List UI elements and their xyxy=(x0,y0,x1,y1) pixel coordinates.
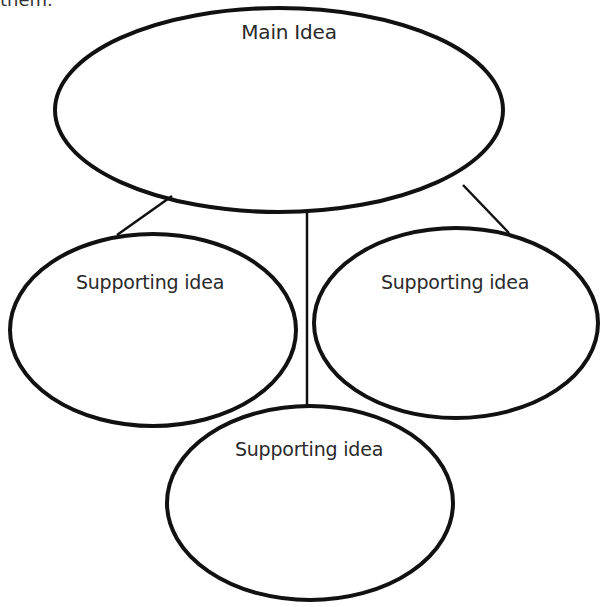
connector-left xyxy=(117,196,172,235)
supporting-idea-oval-right[interactable] xyxy=(314,228,598,418)
connector-right xyxy=(463,185,509,233)
supporting-idea-oval-left[interactable] xyxy=(10,234,296,426)
supporting-idea-label-left: Supporting idea xyxy=(76,271,224,293)
main-idea-label: Main Idea xyxy=(241,20,336,44)
supporting-idea-label-right: Supporting idea xyxy=(381,271,529,293)
supporting-idea-oval-bottom[interactable] xyxy=(167,406,453,600)
supporting-idea-label-bottom: Supporting idea xyxy=(235,438,383,460)
graphic-organizer: them. Main Idea Supporting idea Supporti… xyxy=(0,0,607,607)
organizer-shapes xyxy=(0,0,607,607)
